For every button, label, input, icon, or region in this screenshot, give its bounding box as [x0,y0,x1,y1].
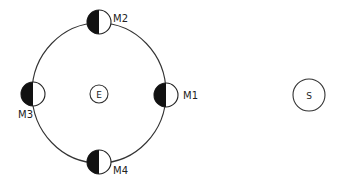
moon-m1-label: M1 [183,90,198,101]
moon-m2-label: M2 [113,13,128,24]
moon-m3-label: M3 [18,109,33,120]
earth: E [90,85,108,103]
moon-m3: M3 [18,82,45,120]
earth-label: E [96,90,102,100]
moon-m1: M1 [154,83,198,107]
moon-m2: M2 [87,10,128,34]
sun: S [293,79,325,111]
moon-m4: M4 [87,150,128,176]
moon-phase-diagram: E S M2 M1 M3 M4 [0,0,349,190]
moon-m4-label: M4 [113,165,128,176]
sun-label: S [306,91,312,101]
